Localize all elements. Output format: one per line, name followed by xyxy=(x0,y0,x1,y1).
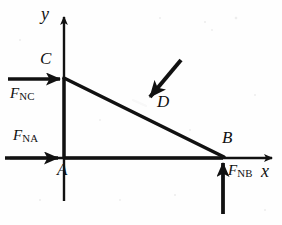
force-label-fnc: FNC xyxy=(10,86,35,101)
point-label-b: B xyxy=(222,129,232,146)
point-label-c: C xyxy=(40,50,51,67)
x-axis-label: x xyxy=(261,162,269,180)
force-symbol-fna: F xyxy=(13,127,22,143)
force-subscript-fnb: NB xyxy=(237,167,252,179)
y-axis-label: y xyxy=(41,5,49,23)
force-label-fnb: FNB xyxy=(228,163,253,178)
force-symbol-fnb: F xyxy=(228,162,237,178)
force-symbol-fnc: F xyxy=(10,85,19,101)
diagram-canvas xyxy=(0,0,282,225)
point-label-d: D xyxy=(157,93,169,110)
force-label-fna: FNA xyxy=(13,128,38,143)
force-subscript-fnc: NC xyxy=(19,90,34,102)
free-body-diagram: y x C A B D FNC FNA FNB xyxy=(0,0,282,225)
point-label-a: A xyxy=(57,161,67,178)
force-subscript-fna: NA xyxy=(22,132,38,144)
member-CB xyxy=(64,78,224,157)
hypotenuse-highlight xyxy=(133,100,146,106)
